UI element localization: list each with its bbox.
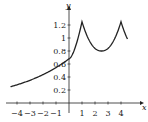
x-tick-label: −3	[24, 109, 36, 118]
line-chart: x y −4−3−2−11234 0.20.40.60.811.2	[0, 0, 148, 122]
x-ticks: −4−3−2−11234	[11, 102, 123, 119]
x-tick-label: 3	[105, 109, 110, 118]
y-tick-label: 1.2	[53, 21, 66, 30]
x-tick-label: −2	[37, 109, 49, 118]
y-axis-label: y	[65, 1, 71, 10]
x-tick-label: −1	[50, 109, 62, 118]
axes: x y	[6, 1, 147, 113]
x-tick-label: 2	[92, 109, 97, 118]
y-tick-label: 0.4	[53, 73, 66, 82]
x-axis-label: x	[142, 103, 147, 112]
y-tick-label: 1	[61, 34, 66, 43]
x-tick-label: 1	[79, 109, 84, 118]
x-tick-label: −4	[11, 109, 23, 118]
x-tick-label: 4	[118, 109, 123, 118]
y-ticks: 0.20.40.60.811.2	[53, 21, 70, 95]
y-tick-label: 0.8	[53, 47, 66, 56]
y-tick-label: 0.2	[53, 86, 66, 95]
